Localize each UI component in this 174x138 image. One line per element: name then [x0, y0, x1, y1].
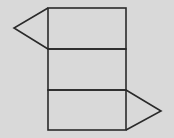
prism-net-diagram — [0, 0, 174, 138]
